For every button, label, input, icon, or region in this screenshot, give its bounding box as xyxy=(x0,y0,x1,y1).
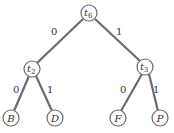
node-F: F xyxy=(110,110,126,126)
node-t6: t6 xyxy=(81,5,97,21)
node-t2: t2 xyxy=(24,61,40,77)
node-t2-subscript: 2 xyxy=(31,68,35,76)
edge-label-t2-B: 0 xyxy=(13,84,19,95)
node-F-label: F xyxy=(114,113,123,124)
edge-label-t3-P: 1 xyxy=(153,84,159,95)
node-t3: t3 xyxy=(137,59,153,75)
edge-t6-t2 xyxy=(37,19,83,63)
node-D: D xyxy=(47,110,63,126)
node-P-label: P xyxy=(156,113,164,124)
edge-label-t2-D: 1 xyxy=(47,84,53,95)
edge-label-t6-t3: 1 xyxy=(116,26,122,37)
node-t3-subscript: 3 xyxy=(144,66,148,74)
node-P: P xyxy=(152,110,168,126)
edge-label-t6-t2: 0 xyxy=(51,26,57,37)
node-t6-subscript: 6 xyxy=(88,12,93,20)
binary-tree-diagram: 0 1 0 1 0 1 t6 t2 t3 B D F P xyxy=(0,0,174,133)
edge-label-t3-F: 0 xyxy=(120,84,126,95)
node-B: B xyxy=(3,110,19,126)
node-B-label: B xyxy=(6,113,14,124)
node-D-label: D xyxy=(50,113,59,124)
